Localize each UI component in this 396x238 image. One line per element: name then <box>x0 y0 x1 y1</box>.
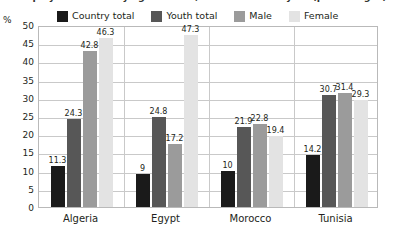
chart-plot-wrapper: 50454035302520151050 11.324.342.846.3924… <box>0 26 396 238</box>
bar-egypt-youth-total[interactable]: 24.8 <box>152 117 166 207</box>
bar-value-label: 10 <box>222 162 232 170</box>
y-axis-tick-label: 50 <box>23 22 34 31</box>
legend-label: Female <box>304 11 338 21</box>
bar-value-label: 14.2 <box>304 146 322 154</box>
figure-title: Unemployment rates by age and sex, lates… <box>0 0 396 5</box>
bar-tunisia-country-total[interactable]: 14.2 <box>306 155 320 207</box>
y-axis-tick-label: 35 <box>23 76 34 85</box>
bar-value-label: 24.3 <box>65 110 83 118</box>
y-axis-tick-label: 25 <box>23 113 34 122</box>
legend-swatch-icon <box>57 11 68 22</box>
y-axis-tick-label: 45 <box>23 40 34 49</box>
bar-value-label: 46.3 <box>97 29 115 37</box>
legend-swatch-icon <box>151 11 162 22</box>
y-axis-tick-label: 20 <box>23 131 34 140</box>
x-axis-category-labels: AlgeriaEgyptMoroccoTunisia <box>38 210 378 230</box>
chart-legend: Country totalYouth totalMaleFemale <box>0 9 396 23</box>
bar-value-label: 47.3 <box>182 26 200 34</box>
x-axis-category-algeria: Algeria <box>38 210 123 230</box>
bar-group-morocco: 1021.922.819.4 <box>209 27 294 207</box>
y-axis-tick-label: 40 <box>23 58 34 67</box>
bar-morocco-female[interactable]: 19.4 <box>269 136 283 207</box>
y-axis-tick-label: 10 <box>23 167 34 176</box>
legend-item-youth-total[interactable]: Youth total <box>151 11 217 22</box>
legend-label: Country total <box>72 11 134 21</box>
y-axis-tick-label: 0 <box>28 204 34 213</box>
legend-item-male[interactable]: Male <box>234 11 272 22</box>
bar-value-label: 22.8 <box>251 115 269 123</box>
bar-algeria-female[interactable]: 46.3 <box>99 38 113 207</box>
bar-algeria-country-total[interactable]: 11.3 <box>51 166 65 207</box>
plot-area: 11.324.342.846.3924.817.247.31021.922.81… <box>38 26 378 208</box>
bar-tunisia-male[interactable]: 31.4 <box>338 93 352 207</box>
bar-value-label: 42.8 <box>81 42 99 50</box>
legend-swatch-icon <box>289 11 300 22</box>
x-axis-category-tunisia: Tunisia <box>293 210 378 230</box>
y-axis-tick-label: 30 <box>23 94 34 103</box>
bar-morocco-male[interactable]: 22.8 <box>253 124 267 207</box>
y-axis-unit-label: % <box>3 15 12 25</box>
bar-egypt-country-total[interactable]: 9 <box>136 174 150 207</box>
y-axis: 50454035302520151050 <box>0 26 38 208</box>
bar-value-label: 11.3 <box>49 157 67 165</box>
bar-value-label: 24.8 <box>150 108 168 116</box>
bar-value-label: 17.2 <box>166 135 184 143</box>
bar-group-egypt: 924.817.247.3 <box>124 27 209 207</box>
bar-tunisia-female[interactable]: 29.3 <box>354 100 368 207</box>
bar-group-tunisia: 14.230.731.429.3 <box>294 27 379 207</box>
bar-value-label: 9 <box>140 165 145 173</box>
y-axis-tick-label: 15 <box>23 149 34 158</box>
legend-item-female[interactable]: Female <box>289 11 338 22</box>
x-axis-category-morocco: Morocco <box>208 210 293 230</box>
legend-swatch-icon <box>234 11 245 22</box>
bar-egypt-male[interactable]: 17.2 <box>168 144 182 207</box>
bar-algeria-male[interactable]: 42.8 <box>83 51 97 207</box>
bar-tunisia-youth-total[interactable]: 30.7 <box>322 95 336 207</box>
bar-morocco-youth-total[interactable]: 21.9 <box>237 127 251 207</box>
legend-label: Male <box>249 11 272 21</box>
x-axis-category-egypt: Egypt <box>123 210 208 230</box>
legend-label: Youth total <box>166 11 217 21</box>
bar-egypt-female[interactable]: 47.3 <box>184 35 198 207</box>
bar-group-algeria: 11.324.342.846.3 <box>39 27 124 207</box>
legend-item-country-total[interactable]: Country total <box>57 11 134 22</box>
bar-value-label: 29.3 <box>352 91 370 99</box>
bar-algeria-youth-total[interactable]: 24.3 <box>67 119 81 207</box>
bar-morocco-country-total[interactable]: 10 <box>221 171 235 207</box>
bar-value-label: 19.4 <box>267 127 285 135</box>
y-axis-tick-label: 5 <box>28 185 34 194</box>
